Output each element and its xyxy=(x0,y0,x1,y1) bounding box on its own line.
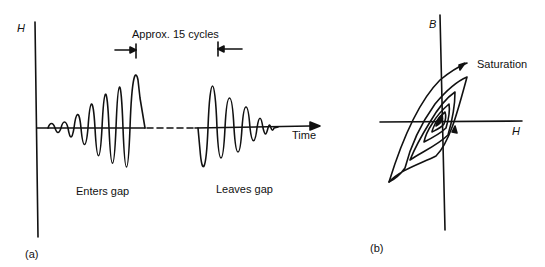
h-axis-label-a: H xyxy=(17,22,25,34)
cycles-annotation: Approx. 15 cycles xyxy=(132,28,219,40)
enters-gap-label: Enters gap xyxy=(76,185,129,197)
figure-canvas xyxy=(0,0,545,267)
h-axis-label-b: H xyxy=(512,125,520,137)
time-axis-label: Time xyxy=(292,129,316,141)
h-axis-a xyxy=(35,22,38,237)
time-axis-right xyxy=(195,126,310,128)
panel-a-caption: (a) xyxy=(25,248,38,260)
b-axis-label: B xyxy=(429,18,436,30)
saturation-arrow-icon xyxy=(459,63,465,70)
panel-b-caption: (b) xyxy=(370,242,383,254)
leaves-gap-label: Leaves gap xyxy=(216,183,273,195)
saturation-annotation: Saturation xyxy=(477,58,527,70)
hysteresis-loop-3 xyxy=(410,92,455,160)
enters-gap-waveform xyxy=(48,75,145,167)
